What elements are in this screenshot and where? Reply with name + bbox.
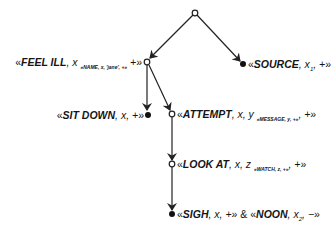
node-sit-down-filled-circle-icon (145, 112, 151, 118)
subscript: «WATCH, z, +» (254, 166, 289, 172)
tail-2: , − (302, 208, 314, 220)
label-look-at: «LOOK AT, x, z «WATCH, z, +», +» (177, 158, 306, 175)
close-quote: » (310, 108, 316, 120)
close-quote-2: » (314, 208, 320, 220)
args: , x (299, 58, 310, 70)
args: , x, + (115, 109, 138, 121)
tail: + (127, 56, 136, 68)
edge-root-feel-ill (150, 15, 193, 58)
label-sigh-noon: «SIGH, x, +» & «NOON, x2, −» (177, 208, 320, 225)
predicate: SOURCE (254, 58, 299, 70)
close-quote: » (325, 58, 331, 70)
args: , x, + (209, 208, 232, 220)
close-quote: » (136, 56, 142, 68)
label-source: «SOURCE, x1, +» (248, 58, 331, 75)
node-look-at-open-circle-icon (169, 161, 175, 167)
node-source-filled-circle-icon (240, 61, 246, 67)
close-quote: » (138, 109, 144, 121)
predicate-2: NOON (256, 208, 288, 220)
subscript: «NAME, x, 'jane', +» (80, 64, 127, 70)
predicate: ATTEMPT (183, 108, 232, 120)
label-feel-ill: «FEEL ILL, x «NAME, x, 'jane', +» +» (15, 56, 142, 73)
node-attempt-open-circle-icon (169, 111, 175, 117)
subscript: «MESSAGE, y, +» (257, 116, 299, 122)
predicate: LOOK AT (183, 158, 229, 170)
args-2: , x (288, 208, 299, 220)
predicate: SIGH (183, 208, 209, 220)
args: , x, y (232, 108, 254, 120)
node-sigh-filled-circle-icon (169, 211, 175, 217)
predicate: SIT DOWN (63, 109, 116, 121)
args: , x, z (229, 158, 251, 170)
node-feel-ill-open-circle-icon (144, 59, 150, 65)
close-quote: » (300, 158, 306, 170)
edge-root-source (197, 15, 240, 61)
predicate: FEEL ILL (21, 56, 66, 68)
conjunction: & (237, 208, 250, 220)
node-root-open-circle-icon (192, 10, 198, 16)
label-attempt: «ATTEMPT, x, y «MESSAGE, y, +», +» (177, 108, 316, 125)
args: , x (66, 56, 77, 68)
tail: , + (298, 108, 310, 120)
tail: , + (313, 58, 325, 70)
edge-feel-ill-attempt (149, 65, 170, 110)
tail: , + (289, 158, 301, 170)
label-sit-down: «SIT DOWN, x, +» (57, 109, 144, 121)
